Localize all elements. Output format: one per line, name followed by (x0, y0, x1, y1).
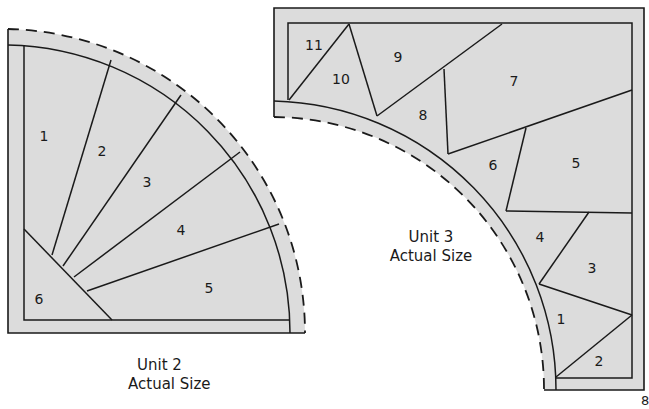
unit3-piece-8: 8 (419, 107, 428, 123)
unit2-piece-6: 6 (35, 291, 44, 307)
unit3-piece-6: 6 (489, 157, 498, 173)
unit2-piece-5: 5 (205, 280, 214, 296)
unit3-piece-4: 4 (536, 229, 545, 245)
unit-2-template: 1 2 3 4 5 6 (8, 29, 305, 333)
unit3-piece-3: 3 (588, 260, 597, 276)
unit2-caption-title: Unit 2 (137, 356, 215, 375)
unit2-caption: Unit 2 Actual Size (137, 356, 215, 394)
unit3-caption: Unit 3 Actual Size (376, 228, 486, 266)
unit2-piece-2: 2 (98, 143, 107, 159)
unit3-caption-subtitle: Actual Size (376, 247, 486, 266)
unit3-piece-11: 11 (305, 37, 323, 53)
page-number: 8 (641, 391, 649, 409)
unit3-piece-10: 10 (332, 71, 350, 87)
unit3-caption-title: Unit 3 (376, 228, 486, 247)
unit2-piece-4: 4 (177, 222, 186, 238)
unit3-piece-2: 2 (595, 353, 604, 369)
unit3-piece-1: 1 (557, 311, 566, 327)
unit3-piece-5: 5 (572, 155, 581, 171)
unit2-caption-subtitle-text: Actual Size (128, 375, 211, 393)
unit2-piece-3: 3 (143, 174, 152, 190)
unit2-caption-subtitle: Actual Size (132, 375, 215, 394)
unit3-piece-9: 9 (394, 49, 403, 65)
unit-3-template: 11 10 9 8 7 6 5 4 3 1 2 (272, 8, 644, 390)
unit3-piece-7: 7 (510, 73, 519, 89)
unit2-piece-1: 1 (40, 128, 49, 144)
